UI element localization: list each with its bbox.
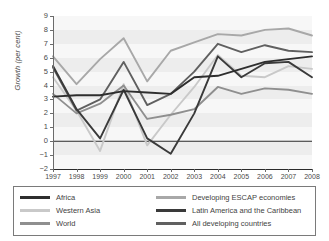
x-axis-tick-label: 2000 xyxy=(111,173,137,181)
x-axis-tick-label: 2003 xyxy=(181,173,207,181)
y-axis-tick-label: −1 xyxy=(8,151,48,159)
legend-column-left: AfricaWestern AsiaWorld xyxy=(20,191,150,230)
x-axis-tick xyxy=(147,169,148,172)
y-axis-tick xyxy=(50,155,53,156)
y-axis-tick-label: 3 xyxy=(8,95,48,103)
x-axis-tick xyxy=(53,169,54,172)
x-axis-tick xyxy=(100,169,101,172)
legend-item: World xyxy=(20,217,150,230)
legend-swatch-icon xyxy=(20,196,50,199)
plot-area xyxy=(53,16,312,169)
series-line xyxy=(53,56,312,153)
legend-label: World xyxy=(56,219,75,228)
legend-swatch-icon xyxy=(20,222,50,225)
y-axis-tick xyxy=(50,86,53,87)
x-axis-tick-label: 2001 xyxy=(134,173,160,181)
legend-label: Africa xyxy=(56,193,75,202)
y-axis-tick-label: 2 xyxy=(8,109,48,117)
y-axis-tick xyxy=(50,127,53,128)
y-axis-tick-label: 9 xyxy=(8,12,48,20)
legend-label: Developing ESCAP economies xyxy=(192,193,295,202)
x-axis-line xyxy=(53,169,312,170)
y-axis-tick-label: 0 xyxy=(8,137,48,145)
legend-label: Western Asia xyxy=(56,206,100,215)
series-lines xyxy=(53,16,312,169)
legend-item: Developing ESCAP economies xyxy=(156,191,314,204)
x-axis-tick xyxy=(124,169,125,172)
x-axis-tick-label: 2007 xyxy=(275,173,301,181)
legend-item: Western Asia xyxy=(20,204,150,217)
y-axis-tick-label: 5 xyxy=(8,68,48,76)
x-axis-tick xyxy=(265,169,266,172)
series-line xyxy=(53,29,312,85)
x-axis-tick xyxy=(312,169,313,172)
chart-legend: AfricaWestern AsiaWorld Developing ESCAP… xyxy=(13,186,316,236)
legend-swatch-icon xyxy=(156,209,186,212)
x-axis-tick xyxy=(194,169,195,172)
legend-label: All developing countries xyxy=(192,219,271,228)
legend-swatch-icon xyxy=(156,222,186,225)
x-axis-tick xyxy=(77,169,78,172)
x-axis-tick-label: 2008 xyxy=(299,173,325,181)
x-axis-tick xyxy=(171,169,172,172)
y-axis-tick xyxy=(50,72,53,73)
legend-swatch-icon xyxy=(156,196,186,199)
y-axis-tick-label: −2 xyxy=(8,165,48,173)
x-axis-tick xyxy=(218,169,219,172)
y-axis-tick-label: 7 xyxy=(8,40,48,48)
y-axis-tick-label: 6 xyxy=(8,54,48,62)
y-axis-tick-label: 1 xyxy=(8,123,48,131)
y-axis-line xyxy=(53,16,54,169)
legend-item: Africa xyxy=(20,191,150,204)
legend-column-right: Developing ESCAP economiesLatin America … xyxy=(156,191,314,230)
y-axis-tick-label: 8 xyxy=(8,26,48,34)
legend-item: Latin America and the Caribbean xyxy=(156,204,314,217)
y-axis-tick xyxy=(50,113,53,114)
growth-line-chart: Growth (per cent) 9876543210−1−2 1997199… xyxy=(0,0,329,182)
x-axis-tick xyxy=(288,169,289,172)
legend-swatch-icon xyxy=(20,209,50,212)
legend-item: All developing countries xyxy=(156,217,314,230)
x-axis-tick-label: 2006 xyxy=(252,173,278,181)
x-axis-tick-label: 2002 xyxy=(158,173,184,181)
y-axis-tick-label: 4 xyxy=(8,82,48,90)
y-axis-tick xyxy=(50,141,53,142)
x-axis-tick-label: 2004 xyxy=(205,173,231,181)
y-axis-tick xyxy=(50,30,53,31)
y-axis-tick xyxy=(50,58,53,59)
y-axis-tick xyxy=(50,16,53,17)
y-axis-tick xyxy=(50,44,53,45)
x-axis-tick-label: 2005 xyxy=(228,173,254,181)
chart-page: Growth (per cent) 9876543210−1−2 1997199… xyxy=(0,0,329,241)
x-axis-tick-label: 1999 xyxy=(87,173,113,181)
legend-label: Latin America and the Caribbean xyxy=(192,206,301,215)
x-axis-tick xyxy=(241,169,242,172)
x-axis-tick-label: 1998 xyxy=(64,173,90,181)
y-axis-tick xyxy=(50,99,53,100)
x-axis-tick-label: 1997 xyxy=(40,173,66,181)
